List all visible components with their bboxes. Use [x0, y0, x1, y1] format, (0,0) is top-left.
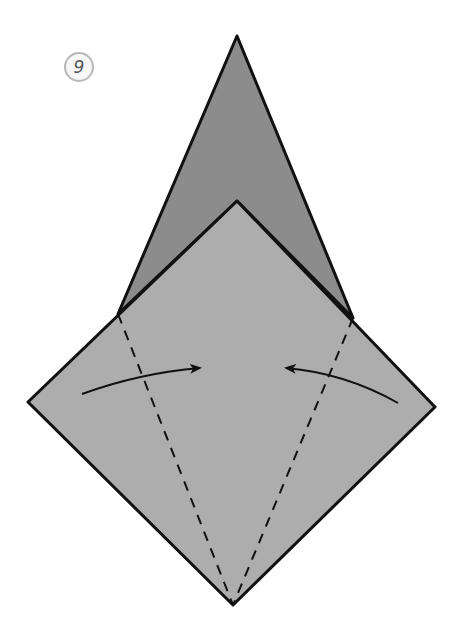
front-square [28, 201, 435, 605]
origami-diagram [0, 0, 461, 638]
